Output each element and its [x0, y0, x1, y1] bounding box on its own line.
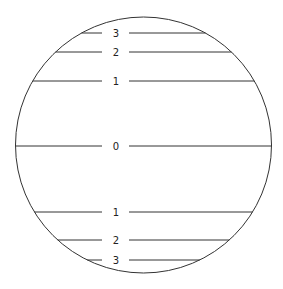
- level-line-5: 2: [58, 235, 230, 246]
- level-line-6: 3: [87, 255, 199, 266]
- level-line-4: 1: [34, 207, 252, 218]
- level-line-2: 1: [33, 76, 255, 87]
- level-label: 3: [113, 28, 119, 39]
- level-line-3: 0: [16, 141, 272, 152]
- level-label: 1: [113, 76, 119, 87]
- levels-group: 3210123: [16, 28, 272, 266]
- level-line-1: 2: [56, 47, 232, 58]
- level-label: 2: [113, 235, 119, 246]
- level-circle-diagram: 3210123: [0, 0, 283, 289]
- level-label: 0: [113, 141, 119, 152]
- outer-circle: [16, 17, 272, 273]
- level-line-0: 3: [82, 28, 206, 39]
- level-label: 2: [113, 47, 119, 58]
- level-label: 3: [113, 255, 119, 266]
- level-label: 1: [113, 207, 119, 218]
